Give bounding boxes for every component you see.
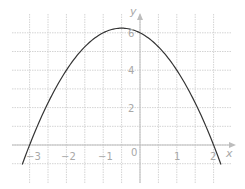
y-axis-label: y bbox=[129, 5, 137, 18]
origin-label: 0 bbox=[131, 147, 137, 158]
y-tick-label: 2 bbox=[128, 103, 134, 114]
x-tick-label: 1 bbox=[174, 151, 180, 162]
y-axis bbox=[137, 13, 143, 183]
x-axis bbox=[12, 142, 236, 148]
y-tick-label: 6 bbox=[128, 28, 134, 39]
chart-canvas: x y −3 −2 −1 0 1 2 2 4 6 bbox=[0, 0, 245, 189]
x-tick-label: −1 bbox=[98, 151, 113, 162]
x-tick-label: −2 bbox=[61, 151, 76, 162]
y-tick-label: 4 bbox=[128, 65, 134, 76]
x-tick-label: −3 bbox=[26, 151, 41, 162]
y-axis-arrow-icon bbox=[137, 13, 143, 20]
grid bbox=[12, 14, 232, 183]
x-tick-label: 2 bbox=[210, 151, 216, 162]
x-axis-label: x bbox=[225, 147, 233, 160]
